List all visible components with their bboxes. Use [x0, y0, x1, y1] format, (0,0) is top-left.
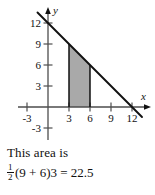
caption-line-2: 1 2 (9 + 6)3 = 22.5	[7, 163, 94, 182]
x-tick-label-9: 9	[108, 112, 114, 124]
caption-expression: (9 + 6)3 = 22.5	[15, 165, 94, 181]
y-tick-label-6: 6	[36, 59, 42, 71]
y-axis-label: y	[52, 4, 58, 16]
figure-container: y x -3 3 6 9 12 12 9 6 3 -3 This area is…	[0, 0, 155, 195]
fraction-numerator: 1	[7, 163, 14, 172]
x-tick-label-3: 3	[66, 112, 72, 124]
x-axis-label: x	[140, 90, 146, 102]
fraction-one-half: 1 2	[7, 163, 14, 182]
y-tick-label-neg3: -3	[32, 122, 42, 134]
x-tick-label-6: 6	[87, 112, 93, 124]
coordinate-plane-figure: y x -3 3 6 9 12 12 9 6 3 -3	[0, 0, 155, 143]
fraction-denominator: 2	[7, 172, 14, 182]
x-axis-arrow-icon	[144, 104, 151, 110]
y-axis-arrow-icon	[45, 7, 51, 14]
caption-line-1: This area is	[7, 145, 68, 161]
y-tick-label-12: 12	[30, 17, 41, 29]
y-tick-label-9: 9	[36, 38, 42, 50]
y-tick-label-3: 3	[36, 80, 42, 92]
x-tick-label-neg3: -3	[22, 112, 32, 124]
x-tick-label-12: 12	[127, 112, 138, 124]
